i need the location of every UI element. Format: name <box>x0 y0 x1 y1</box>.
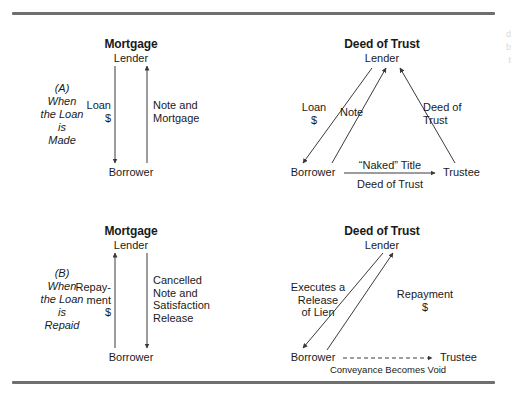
node-a-mortgage-lender: Lender <box>114 52 148 65</box>
node-b-mortgage-borrower: Borrower <box>109 351 154 364</box>
edge-label-b-deed-conveyance-void: Conveyance Becomes Void <box>330 364 446 377</box>
panel-title-a-mortgage: Mortgage <box>104 38 157 51</box>
edge-label-b-mortgage-repayment: Repay- ment $ <box>76 281 111 319</box>
figure-canvas: (A) When the Loan is Made Mortgage Lende… <box>0 0 511 400</box>
edge-label-a-deed-naked-title: “Naked” Title <box>359 159 421 172</box>
edge-label-a-deed-base-deed: Deed of Trust <box>357 178 423 191</box>
panel-title-a-deed: Deed of Trust <box>344 38 419 51</box>
edge-label-b-deed-release-of-lien: Executes a Release of Lien <box>291 281 345 319</box>
node-a-deed-trustee: Trustee <box>443 166 480 179</box>
stage-label-a: (A) When the Loan is Made <box>41 82 84 147</box>
node-b-deed-trustee: Trustee <box>440 351 477 364</box>
edge-label-b-deed-repayment: Repayment $ <box>397 288 453 313</box>
margin-note-line-2: b <box>506 41 511 54</box>
panel-title-b-deed: Deed of Trust <box>344 225 419 238</box>
node-b-deed-lender: Lender <box>365 239 399 252</box>
node-b-deed-borrower: Borrower <box>291 351 336 364</box>
edge-label-b-mortgage-release: Cancelled Note and Satisfaction Release <box>153 274 210 324</box>
node-a-deed-lender: Lender <box>365 52 399 65</box>
edge-label-a-mortgage-note: Note and Mortgage <box>153 99 199 124</box>
edge-label-a-deed-loan: Loan $ <box>302 101 326 126</box>
edge-label-a-mortgage-loan: Loan $ <box>87 99 111 124</box>
panel-title-b-mortgage: Mortgage <box>104 225 157 238</box>
arrow-layer <box>0 0 511 400</box>
node-b-mortgage-lender: Lender <box>114 239 148 252</box>
node-a-deed-borrower: Borrower <box>291 166 336 179</box>
edge-label-a-deed-note: Note <box>340 106 363 119</box>
bottom-divider-rule <box>12 381 495 384</box>
node-a-mortgage-borrower: Borrower <box>109 166 154 179</box>
edge-label-a-deed-trust: Deed of Trust <box>423 101 462 126</box>
margin-note-line-1: d <box>506 28 511 41</box>
top-divider-rule <box>12 12 495 15</box>
